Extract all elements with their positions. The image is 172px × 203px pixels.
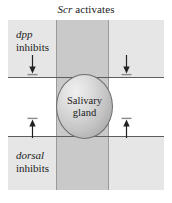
middle-stripe-right <box>109 77 164 136</box>
gland-label-line2: gland <box>73 107 96 119</box>
title-gene-name: Scr <box>57 3 72 15</box>
up-arrow-icon-bottom-left <box>26 117 39 138</box>
diagram-title: Scr activates <box>0 3 172 16</box>
down-arrow-icon-top-left <box>26 55 39 76</box>
dorsal-verb: inhibits <box>16 162 49 174</box>
gland-label-line1: Salivary <box>67 95 102 107</box>
dorsal-gene-name: dorsal <box>16 149 44 161</box>
dorsal-label: dorsal inhibits <box>16 149 49 175</box>
diagram-panel: dpp inhibits dorsal inhibits <box>8 20 164 190</box>
title-verb: activates <box>75 3 114 15</box>
down-arrow-icon-top-right <box>120 55 133 76</box>
salivary-gland-circle: Salivary gland <box>56 74 113 139</box>
salivary-gland-regulation-diagram: Scr activates dpp inhibits dorsal inhibi… <box>0 0 172 203</box>
dpp-verb: inhibits <box>16 41 49 53</box>
dpp-label: dpp inhibits <box>16 28 49 54</box>
dpp-gene-name: dpp <box>16 28 33 40</box>
up-arrow-icon-bottom-right <box>120 117 133 138</box>
